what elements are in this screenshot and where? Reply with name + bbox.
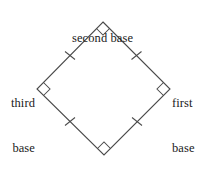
figure-canvas: second base first base home plate third … xyxy=(0,0,205,174)
label-third-base-line2: base xyxy=(0,141,35,156)
label-second-base-text: second base xyxy=(0,31,205,46)
label-second-base: second base xyxy=(0,1,205,76)
label-third-base: third base xyxy=(0,66,35,174)
right-angle-marker-first-base xyxy=(157,83,164,96)
label-first-base-line1: first xyxy=(172,96,205,111)
right-angle-marker-third-base xyxy=(44,83,51,96)
right-angle-marker-home-plate xyxy=(98,142,111,149)
label-third-base-line1: third xyxy=(0,96,35,111)
label-first-base-line2: base xyxy=(172,141,205,156)
